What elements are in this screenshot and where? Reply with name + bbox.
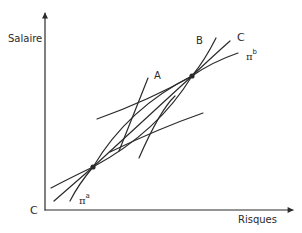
isoprofit-label-pi-b: πb (246, 51, 257, 62)
origin-label-c: C (30, 205, 38, 216)
curve-c-middle (93, 76, 192, 167)
lower-tangency-point (90, 164, 95, 169)
isoprofit-label-pi-a: πa (79, 195, 90, 206)
curve-steep-lower-right (139, 96, 175, 158)
curve-label-b: B (196, 36, 203, 46)
x-axis-label: Risques (238, 215, 277, 225)
y-axis-label: Salaire (8, 34, 42, 44)
wage-risk-diagram (0, 0, 302, 233)
curve-label-a: A (154, 71, 161, 81)
curve-lower-flat (110, 113, 203, 152)
curve-a (119, 78, 148, 151)
curve-label-c: C (237, 32, 245, 43)
upper-tangency-point (189, 73, 194, 78)
